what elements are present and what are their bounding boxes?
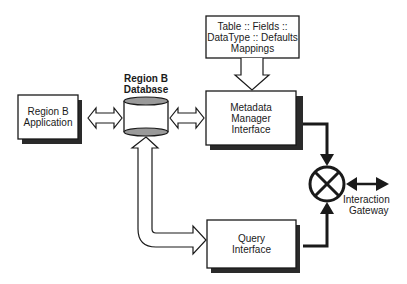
app-label: Region B Application [18, 106, 78, 128]
mappings-label-line1: Table :: Fields :: [206, 21, 299, 32]
metadata-label-line1: Metadata [206, 102, 296, 113]
app-label-line2: Application [18, 117, 78, 128]
metadata-label-line3: Interface [206, 124, 296, 135]
db-metadata-arrow [170, 108, 204, 128]
query-label-line1: Query [207, 233, 296, 244]
mappings-label-line2: DataType :: Defaults [206, 32, 299, 43]
architecture-diagram [0, 0, 407, 284]
gateway-icon [310, 167, 344, 201]
mappings-metadata-arrow [235, 58, 269, 90]
app-label-line1: Region B [18, 106, 78, 117]
gateway-label: Interaction Gateway [343, 194, 403, 216]
query-label-line2: Interface [207, 244, 296, 255]
database-label-line2: Database [116, 84, 176, 95]
database-label: Region B Database [116, 73, 176, 95]
metadata-label: Metadata Manager Interface [206, 102, 296, 135]
query-label: Query Interface [207, 233, 296, 255]
mappings-label-line3: Mappings [206, 43, 299, 54]
database-label-line1: Region B [116, 73, 176, 84]
metadata-gateway-arrowhead [320, 154, 334, 166]
gateway-label-line1: Interaction [343, 194, 403, 205]
gateway-external-arrow [346, 177, 389, 191]
query-gateway-line [303, 210, 327, 246]
query-gateway-arrowhead [320, 202, 334, 214]
app-db-arrow [88, 108, 122, 128]
metadata-gateway-line [303, 124, 327, 158]
mappings-label: Table :: Fields :: DataType :: Defaults … [206, 21, 299, 54]
database-cylinder [124, 97, 168, 136]
gateway-label-line2: Gateway [343, 205, 403, 216]
metadata-label-line2: Manager [206, 113, 296, 124]
db-query-arrow [132, 137, 206, 254]
